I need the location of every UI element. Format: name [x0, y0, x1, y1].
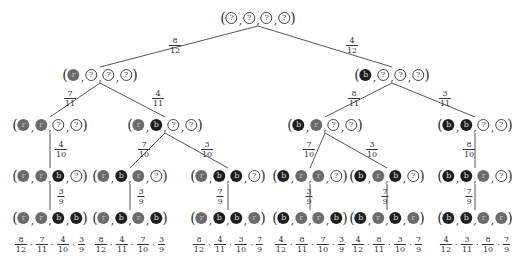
unknown-ball-icon: ? [53, 119, 65, 131]
numerator: 3 [463, 236, 470, 244]
comma: , [491, 215, 495, 226]
numerator: 4 [154, 90, 161, 98]
comma: , [456, 122, 460, 133]
denominator: 12 [352, 244, 364, 254]
comma: , [31, 215, 35, 226]
edge-probability: 710 [303, 141, 315, 159]
factor-fraction: 711 [36, 236, 48, 254]
numerator: 8 [350, 90, 357, 98]
blue-ball-icon: b [460, 119, 472, 131]
unknown-ball-icon: ? [243, 12, 255, 24]
multiply-dot: · [497, 240, 500, 250]
denominator: 9 [381, 196, 388, 206]
unknown-ball-icon: ? [395, 69, 407, 81]
blue-ball-icon: b [355, 170, 367, 182]
denominator: 10 [394, 244, 406, 254]
numerator: 3 [368, 141, 375, 149]
denominator: 10 [235, 244, 247, 254]
denominator: 12 [15, 244, 27, 254]
denominator: 12 [346, 45, 358, 55]
numerator: 8 [171, 37, 178, 45]
multiply-dot: · [131, 240, 134, 250]
numerator: 7 [216, 188, 223, 196]
path-probability-product: 412·811·310·79 [352, 236, 422, 254]
comma: , [244, 215, 248, 226]
denominator: 9 [216, 196, 223, 206]
comma: , [226, 215, 230, 226]
tree-node: (b,r,b,r) [349, 211, 424, 225]
numerator: 7 [66, 90, 73, 98]
multiply-dot: · [152, 240, 155, 250]
red-ball-icon: r [295, 212, 307, 224]
close-paren: ) [162, 169, 167, 183]
comma: , [128, 173, 132, 184]
numerator: 3 [305, 188, 312, 196]
numerator: 4 [57, 141, 64, 149]
denominator: 12 [169, 45, 181, 55]
numerator: 4 [216, 236, 223, 244]
close-paren: ) [419, 169, 424, 183]
unknown-ball-icon: ? [345, 119, 357, 131]
blue-ball-icon: b [278, 212, 290, 224]
tree-node: (b,r,?,?) [287, 118, 362, 132]
comma: , [456, 215, 460, 226]
multiply-dot: · [110, 240, 113, 250]
numerator: 3 [397, 236, 404, 244]
red-ball-icon: r [495, 212, 507, 224]
blue-ball-icon: b [360, 69, 372, 81]
blue-ball-icon: b [231, 212, 243, 224]
edge-probability: 711 [64, 90, 76, 108]
comma: , [244, 173, 248, 184]
unknown-ball-icon: ? [85, 69, 97, 81]
blue-ball-icon: b [70, 212, 82, 224]
edge-probability: 310 [366, 141, 378, 159]
unknown-ball-icon: ? [278, 12, 290, 24]
edge-probability: 39 [137, 188, 144, 206]
denominator: 9 [305, 196, 312, 206]
comma: , [31, 173, 35, 184]
numerator: 8 [485, 236, 492, 244]
multiply-dot: · [72, 240, 75, 250]
close-paren: ) [82, 211, 87, 225]
factor-fraction: 412 [440, 236, 452, 254]
tree-node: (r,b,b,r) [190, 211, 265, 225]
unknown-ball-icon: ? [103, 69, 115, 81]
numerator: 3 [338, 236, 345, 244]
denominator: 11 [214, 244, 226, 254]
numerator: 7 [415, 236, 422, 244]
factor-fraction: 411 [116, 236, 128, 254]
factor-fraction: 710 [317, 236, 329, 254]
factor-fraction: 310 [235, 236, 247, 254]
close-paren: ) [419, 211, 424, 225]
denominator: 11 [373, 244, 385, 254]
red-ball-icon: r [133, 170, 145, 182]
factor-fraction: 812 [95, 236, 107, 254]
red-ball-icon: r [372, 170, 384, 182]
comma: , [373, 72, 377, 83]
comma: , [66, 122, 70, 133]
comma: , [48, 122, 52, 133]
comma: , [146, 215, 150, 226]
factor-fraction: 311 [461, 236, 473, 254]
denominator: 10 [317, 244, 329, 254]
numerator: 7 [465, 188, 472, 196]
comma: , [491, 173, 495, 184]
comma: , [306, 122, 310, 133]
tree-edge [165, 133, 228, 168]
denominator: 10 [482, 244, 494, 254]
edge-probability: 311 [439, 90, 451, 108]
denominator: 10 [55, 149, 67, 159]
close-paren: ) [424, 68, 429, 82]
factor-fraction: 39 [158, 236, 165, 254]
unknown-ball-icon: ? [412, 69, 424, 81]
comma: , [209, 215, 213, 226]
factor-fraction: 812 [193, 236, 205, 254]
denominator: 9 [256, 244, 263, 254]
tree-node: (b,r,r,?) [272, 169, 347, 183]
blue-ball-icon: b [390, 212, 402, 224]
numerator: 3 [441, 90, 448, 98]
red-ball-icon: r [18, 212, 30, 224]
red-ball-icon: r [133, 119, 145, 131]
red-ball-icon: r [68, 69, 80, 81]
comma: , [209, 173, 213, 184]
